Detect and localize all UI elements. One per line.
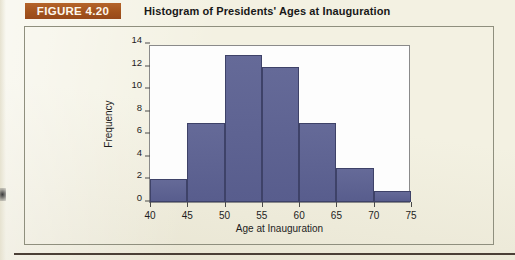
x-axis-label: Age at Inauguration (149, 223, 410, 234)
y-axis-label: Frequency (103, 100, 114, 147)
page-bottom-rule (14, 253, 515, 255)
histogram-bar (374, 191, 411, 202)
y-tick-label: 8 (137, 101, 142, 112)
y-tick-mark (145, 178, 150, 179)
y-tick-label: 4 (137, 146, 142, 157)
y-tick-label: 0 (137, 192, 142, 203)
figure-page: FIGURE 4.20 Histogram of Presidents' Age… (0, 0, 515, 260)
y-tick-mark (145, 43, 150, 44)
y-tick-mark (145, 88, 150, 89)
x-tick-mark (411, 202, 412, 207)
histogram-bar (336, 168, 373, 202)
y-tick-mark (145, 110, 150, 111)
y-tick-mark (145, 65, 150, 66)
x-tick-label: 65 (331, 210, 342, 221)
x-tick-label: 50 (219, 210, 230, 221)
x-tick-label: 75 (405, 210, 416, 221)
y-tick-label: 10 (131, 79, 142, 90)
x-tick-label: 55 (256, 210, 267, 221)
x-tick-mark (187, 202, 188, 207)
histogram-bar (187, 123, 224, 202)
page-left-edge-shading (0, 0, 6, 260)
bar-series (150, 46, 409, 202)
x-tick-mark (150, 202, 151, 207)
histogram-bar (225, 55, 262, 202)
histogram-bar (299, 123, 336, 202)
y-tick-label: 14 (131, 34, 142, 45)
x-tick-mark (299, 202, 300, 207)
x-tick-label: 70 (368, 210, 379, 221)
figure-frame: 02468101214 4045505560657075 Frequency A… (24, 26, 494, 245)
figure-title: Histogram of Presidents' Ages at Inaugur… (144, 3, 390, 19)
histogram-chart: 02468101214 4045505560657075 Frequency A… (25, 27, 495, 246)
figure-header: FIGURE 4.20 Histogram of Presidents' Age… (0, 0, 515, 26)
y-tick-label: 6 (137, 124, 142, 135)
x-tick-mark (262, 202, 263, 207)
y-tick-label: 2 (137, 169, 142, 180)
plot-area: 02468101214 4045505560657075 (149, 45, 410, 203)
x-tick-label: 40 (144, 210, 155, 221)
histogram-bar (150, 179, 187, 202)
x-tick-mark (336, 202, 337, 207)
x-tick-mark (374, 202, 375, 207)
histogram-bar (262, 67, 299, 202)
y-tick-mark (145, 155, 150, 156)
y-tick-mark (145, 133, 150, 134)
figure-number-badge: FIGURE 4.20 (25, 3, 121, 19)
y-tick-label: 12 (131, 56, 142, 67)
x-tick-label: 60 (294, 210, 305, 221)
x-tick-mark (225, 202, 226, 207)
x-tick-label: 45 (182, 210, 193, 221)
